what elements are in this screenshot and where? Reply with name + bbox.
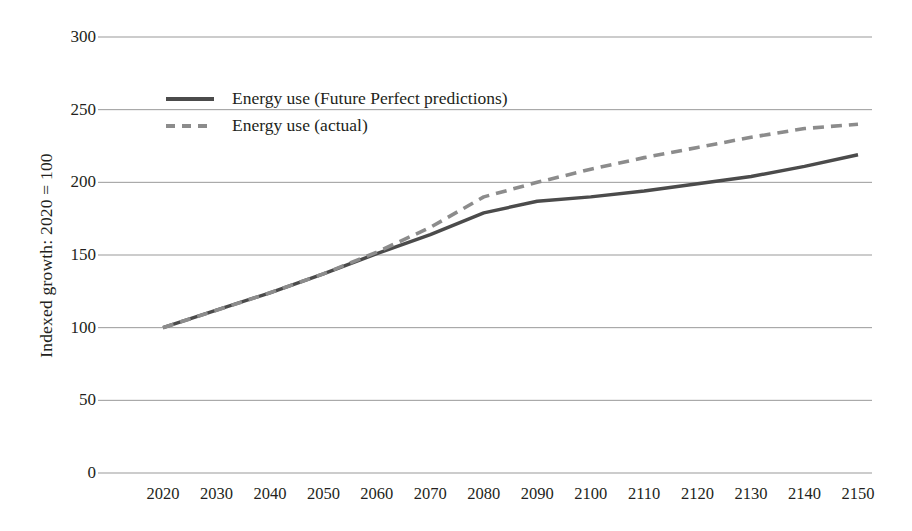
x-tick-label: 2150 (842, 484, 875, 504)
plot-area (0, 0, 912, 531)
x-axis-tick-labels: 2020203020402050206020702080209021002110… (0, 484, 912, 514)
legend-item-actual: Energy use (actual) (166, 112, 596, 139)
x-tick-label: 2090 (521, 484, 554, 504)
legend-dashed-line-icon (166, 119, 214, 133)
x-tick-label: 2140 (788, 484, 821, 504)
x-tick-label: 2110 (628, 484, 660, 504)
series-line-actual (163, 124, 858, 327)
x-tick-label: 2060 (360, 484, 393, 504)
series-lines (163, 124, 858, 327)
x-tick-label: 2030 (200, 484, 233, 504)
legend-label-actual: Energy use (actual) (232, 115, 368, 136)
x-tick-label: 2100 (574, 484, 607, 504)
legend-solid-line-icon (166, 92, 214, 106)
legend-item-predictions: Energy use (Future Perfect predictions) (166, 85, 596, 112)
series-line-predictions (163, 155, 858, 328)
chart-container: Indexed growth: 2020 = 100 0501001502002… (0, 0, 912, 531)
x-tick-label: 2130 (735, 484, 768, 504)
x-tick-label: 2040 (253, 484, 286, 504)
x-tick-label: 2020 (147, 484, 180, 504)
x-tick-label: 2120 (681, 484, 714, 504)
y-tick-marks (98, 37, 110, 473)
legend-label-predictions: Energy use (Future Perfect predictions) (232, 88, 508, 109)
chart-legend: Energy use (Future Perfect predictions) … (166, 85, 596, 139)
x-tick-label: 2070 (414, 484, 447, 504)
x-tick-label: 2050 (307, 484, 340, 504)
x-tick-label: 2080 (467, 484, 500, 504)
